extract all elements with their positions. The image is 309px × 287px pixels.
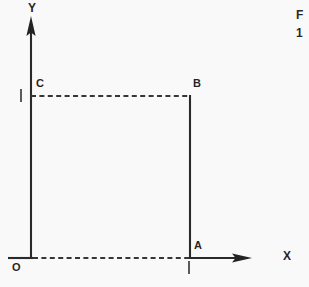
origin-label: O: [12, 262, 21, 273]
x-axis-label: X: [283, 250, 291, 262]
coordinate-diagram-canvas: [0, 0, 309, 287]
caption-line-2: 1: [296, 26, 309, 40]
point-label-a: A: [194, 240, 202, 251]
figure-container: Y X O C B A F 1: [0, 0, 309, 287]
y-axis-label: Y: [28, 2, 36, 14]
point-label-b: B: [193, 78, 201, 89]
point-label-c: C: [36, 78, 44, 89]
caption-line-1: F: [296, 8, 309, 22]
